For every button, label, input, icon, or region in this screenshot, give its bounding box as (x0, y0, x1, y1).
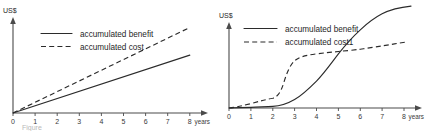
right-xtick-label-8: 8 (402, 113, 406, 120)
left-xtick-label-2: 2 (55, 118, 59, 125)
left-xtick-label-8: 8 (188, 118, 192, 125)
chart-panel-left: US$ 0 1 2 3 4 5 6 7 8 years accumulated … (0, 0, 215, 131)
right-y-axis-arrowhead (226, 22, 232, 29)
right-xtick-label-3: 3 (293, 113, 297, 120)
left-series-accumulated-cost (13, 28, 190, 114)
chart-panel-right: US$ 0 1 2 3 4 5 6 7 8 years accumulated … (215, 0, 430, 131)
left-chart-canvas: US$ 0 1 2 3 4 5 6 7 8 years accumulated … (0, 0, 215, 131)
right-xtick-label-7: 7 (380, 113, 384, 120)
left-legend: accumulated benefit accumulated cost (41, 30, 154, 52)
left-xtick-label-6: 6 (144, 118, 148, 125)
right-chart-canvas: US$ 0 1 2 3 4 5 6 7 8 years accumulated … (215, 0, 430, 131)
right-x-axis-unit-label: years (409, 113, 424, 121)
left-xtick-label-3: 3 (77, 118, 81, 125)
right-series-accumulated-benefit (229, 6, 411, 108)
right-legend-label-benefit: accumulated benefit (285, 25, 359, 34)
figure-two-chart-row: US$ 0 1 2 3 4 5 6 7 8 years accumulated … (0, 0, 430, 131)
left-xtick-label-7: 7 (166, 118, 170, 125)
left-y-axis-arrowhead (10, 17, 16, 24)
left-legend-label-cost: accumulated cost (80, 43, 144, 52)
right-xtick-label-4: 4 (315, 113, 319, 120)
right-xtick-label-2: 2 (271, 113, 275, 120)
right-xtick-label-0: 0 (227, 113, 231, 120)
left-xtick-label-4: 4 (99, 118, 103, 125)
right-legend-label-cost: accumulated cost1 (285, 38, 354, 47)
right-series-accumulated-cost (229, 42, 408, 108)
figure-caption-partial: Figure (22, 124, 42, 131)
right-legend: accumulated benefit accumulated cost1 (244, 25, 359, 48)
left-xtick-label-0: 0 (11, 118, 15, 125)
left-x-axis-arrowhead (201, 110, 208, 116)
right-x-axis-arrowhead (415, 105, 422, 111)
right-xtick-label-6: 6 (358, 113, 362, 120)
right-xtick-label-5: 5 (336, 113, 340, 120)
right-xtick-label-1: 1 (249, 113, 253, 120)
left-x-axis-unit-label: years (195, 118, 210, 126)
right-y-axis-label: US$ (219, 12, 233, 19)
left-y-axis-label: US$ (3, 7, 17, 14)
left-legend-label-benefit: accumulated benefit (80, 30, 154, 39)
left-series-accumulated-benefit (13, 55, 190, 113)
left-xtick-label-5: 5 (122, 118, 126, 125)
